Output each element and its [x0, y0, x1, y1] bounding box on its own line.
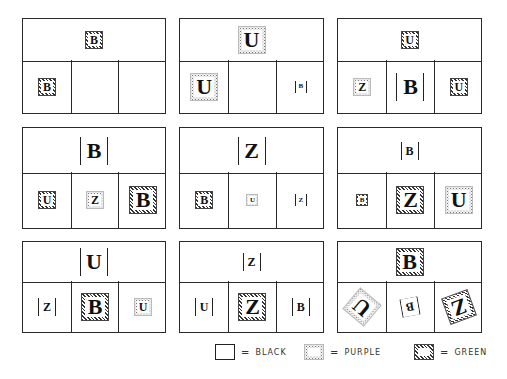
stimulus-letter: U — [349, 293, 375, 320]
black-framed-letter: B — [80, 137, 108, 165]
black-framed-letter: B — [396, 73, 424, 101]
comparison-cell-2: Z — [386, 172, 434, 228]
sample-area: U — [180, 19, 323, 62]
legend-purple: = PURPLE — [304, 342, 381, 362]
black-framed-letter: Z — [295, 194, 307, 206]
comparison-cell-2: B — [386, 60, 434, 113]
stimulus-letter: Z — [448, 294, 469, 320]
stimulus-panel-4: BUZB — [22, 127, 166, 229]
sample-area: B — [23, 19, 165, 62]
equals-sign: = — [330, 347, 338, 358]
purple-frame-swatch — [304, 344, 324, 360]
comparison-cell-3: B — [119, 172, 167, 228]
green-framed-letter: B — [38, 78, 56, 96]
stimulus-letter: U — [43, 194, 52, 206]
comparison-cell-2 — [71, 60, 119, 113]
equals-sign: = — [440, 347, 448, 358]
comparison-cell-1: B — [338, 172, 386, 228]
comparison-cell-2: B — [71, 281, 119, 332]
green-framed-letter: Z — [238, 293, 266, 321]
stimulus-letter: U — [454, 81, 463, 93]
sample-area: B — [338, 242, 481, 283]
stimulus-letter: B — [403, 76, 418, 98]
green-framed-letter: Z — [441, 289, 477, 325]
black-framed-letter: B — [295, 81, 307, 93]
purple-framed-letter: U — [238, 26, 266, 54]
stimulus-letter: U — [405, 34, 414, 46]
black-framed-letter: U — [195, 298, 213, 316]
comparison-cell-3: U — [119, 281, 167, 332]
comparison-cell-3: B — [277, 281, 325, 332]
stimulus-panel-2: UUB — [179, 18, 324, 114]
stimulus-panel-7: UZBU — [22, 241, 166, 333]
stimulus-panel-6: BBZU — [337, 127, 482, 229]
comparison-cell-2: Z — [228, 281, 276, 332]
green-framed-letter: B — [81, 293, 109, 321]
legend-label-purple: PURPLE — [344, 348, 381, 357]
legend-black: = BLACK — [215, 342, 287, 362]
purple-framed-letter: U — [134, 298, 152, 316]
purple-framed-letter: Z — [86, 191, 104, 209]
stimulus-letter: U — [244, 29, 260, 51]
black-framed-letter: Z — [38, 298, 56, 316]
stimulus-panel-3: UZBU — [337, 18, 482, 114]
green-framed-letter: U — [401, 31, 419, 49]
stimulus-letter: B — [298, 83, 303, 90]
black-framed-letter: Z — [243, 253, 261, 271]
purple-framed-letter: U — [246, 194, 258, 206]
stimulus-letter: B — [88, 296, 103, 318]
green-framed-letter: B — [129, 186, 157, 214]
comparison-cell-1: Z — [338, 60, 386, 113]
stimulus-letter: Z — [244, 140, 259, 162]
stimulus-letter: U — [200, 301, 209, 313]
stimulus-panel-9: BUBZ — [337, 241, 482, 333]
stimulus-letter: B — [360, 197, 365, 204]
comparison-cell-1: U — [180, 60, 228, 113]
sample-area: U — [23, 242, 165, 283]
stimulus-letter: U — [451, 189, 467, 211]
stimulus-letter: Z — [298, 197, 303, 204]
comparison-cell-1: B — [23, 60, 71, 113]
stimulus-letter: Z — [91, 194, 99, 206]
green-framed-letter: B — [195, 191, 213, 209]
comparison-cell-2 — [228, 60, 276, 113]
black-frame-swatch — [215, 344, 235, 360]
legend-label-black: BLACK — [255, 348, 286, 357]
sample-area: Z — [180, 242, 323, 283]
stimulus-letter: Z — [403, 189, 418, 211]
black-framed-letter: U — [80, 248, 108, 276]
comparison-cell-1: Z — [23, 281, 71, 332]
purple-framed-letter: Z — [353, 78, 371, 96]
comparison-cell-3 — [119, 60, 167, 113]
stimulus-panel-1: BB — [22, 18, 166, 114]
legend-green: = GREEN — [414, 342, 487, 362]
stimulus-letter: B — [406, 300, 416, 313]
comparison-cell-2: B — [386, 281, 434, 332]
comparison-cell-2: U — [228, 172, 276, 228]
sample-area: Z — [180, 128, 323, 174]
comparison-cell-1: U — [23, 172, 71, 228]
green-framed-letter: B — [356, 194, 368, 206]
comparison-cell-3: Z — [435, 281, 483, 332]
stimulus-letter: B — [402, 251, 417, 273]
stimulus-letter: B — [43, 81, 51, 93]
stimulus-letter: U — [250, 197, 255, 204]
stimulus-letter: Z — [358, 81, 366, 93]
sample-area: B — [338, 128, 481, 174]
black-framed-letter: B — [401, 142, 419, 160]
stimulus-letter: B — [297, 301, 305, 313]
stimulus-letter: Z — [247, 256, 255, 268]
stimulus-letter: U — [86, 251, 102, 273]
equals-sign: = — [241, 347, 249, 358]
green-framed-letter: B — [85, 31, 103, 49]
sample-area: U — [338, 19, 481, 62]
comparison-cell-3: U — [435, 172, 483, 228]
stimulus-letter: B — [90, 34, 98, 46]
legend-label-green: GREEN — [454, 348, 487, 357]
stimulus-letter: Z — [245, 296, 260, 318]
purple-framed-letter: U — [445, 186, 473, 214]
green-framed-letter: B — [396, 248, 424, 276]
stimulus-letter: U — [139, 301, 148, 313]
purple-framed-letter: U — [190, 73, 218, 101]
stimulus-letter: B — [136, 189, 151, 211]
